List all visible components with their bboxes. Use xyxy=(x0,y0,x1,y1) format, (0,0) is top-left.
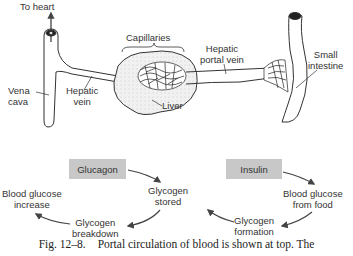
vena-cava xyxy=(44,29,118,127)
figure-number: Fig. 12–8. xyxy=(39,238,86,250)
glucagon-box: Glucagon xyxy=(69,159,126,179)
hepatic-vein xyxy=(56,71,118,82)
figure: To heart Vena cava Hepatic vein Capillar… xyxy=(0,0,353,256)
node-glycogen-formation: Glycogen formation xyxy=(234,216,274,237)
label-hepatic-portal-vein: Hepatic portal vein xyxy=(200,44,244,65)
node-blood-glucose-increase: Blood glucose increase xyxy=(2,189,62,210)
portal-circulation-illustration xyxy=(0,0,353,256)
caption-text: Portal circulation of blood is shown at … xyxy=(98,238,315,250)
intestine-capillaries xyxy=(264,60,288,92)
node-glycogen-stored: Glycogen stored xyxy=(148,186,188,207)
label-capillaries: Capillaries xyxy=(126,33,170,44)
figure-caption: Fig. 12–8.Portal circulation of blood is… xyxy=(0,238,353,250)
capillaries-brace xyxy=(122,43,184,52)
label-vena-cava: Vena cava xyxy=(8,86,30,107)
label-hepatic-vein: Hepatic vein xyxy=(66,86,98,107)
node-glycogen-breakdown: Glycogen breakdown xyxy=(72,218,118,239)
label-to-heart: To heart xyxy=(20,2,54,13)
insulin-box: Insulin xyxy=(226,159,282,179)
label-small-intestine: Small intestine xyxy=(308,50,343,71)
label-liver: Liver xyxy=(162,101,183,112)
liver-capillaries xyxy=(138,62,186,90)
hepatic-portal-vein xyxy=(186,68,270,84)
node-blood-glucose-from-food: Blood glucose from food xyxy=(283,189,343,210)
